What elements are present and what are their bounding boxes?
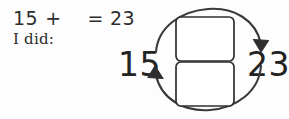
jump-diagram [140,0,289,119]
lower-box[interactable] [176,62,234,106]
sum-value: 23 [110,9,135,28]
upper-box[interactable] [176,17,234,61]
method-label: I did: [13,32,54,47]
worksheet-screenshot: 15 + = 23 I did: 15 23 [0,0,289,119]
equation-row: 15 + = 23 [13,9,135,28]
equals-sign: = [88,9,104,28]
first-addend: 15 [13,9,38,28]
plus-operator: + [45,9,61,28]
